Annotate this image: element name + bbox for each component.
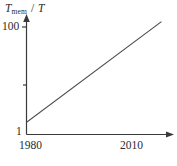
y-axis-title-separator: /: [27, 2, 38, 14]
chart-figure: Tmem / T 100 1 1980 2010: [0, 0, 177, 166]
y-axis-title-denominator: T: [38, 2, 44, 14]
y-axis-title: Tmem / T: [5, 3, 44, 16]
data-series-line: [27, 22, 161, 122]
x-axis-arrow-icon: [166, 131, 174, 137]
x-tick-label-1980: 1980: [19, 140, 42, 152]
y-tick-label-1: 1: [16, 126, 22, 138]
y-axis-title-subscript: mem: [11, 7, 27, 16]
x-tick-label-2010: 2010: [120, 140, 143, 152]
y-tick-label-100: 100: [2, 21, 19, 33]
